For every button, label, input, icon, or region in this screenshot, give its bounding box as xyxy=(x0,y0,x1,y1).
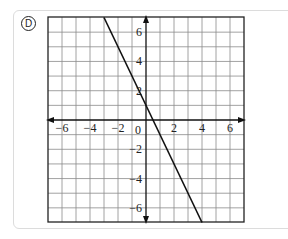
y-tick-label: 6 xyxy=(136,25,142,39)
x-tick-label: 4 xyxy=(199,121,205,135)
y-tick-label: −2 xyxy=(129,142,142,156)
x-tick-label: 2 xyxy=(171,121,177,135)
y-tick-label: −6 xyxy=(129,201,142,215)
y-tick-label: −4 xyxy=(129,172,142,186)
y-tick-label: 4 xyxy=(136,54,142,68)
x-tick-label: −2 xyxy=(112,121,125,135)
x-tick-label: −4 xyxy=(84,121,97,135)
x-axis-left-arrow-icon xyxy=(46,117,54,123)
x-tick-label: 6 xyxy=(227,121,233,135)
coordinate-graph: −6−4−20246 642−2−4−6 xyxy=(0,0,288,239)
x-tick-label: −6 xyxy=(56,121,69,135)
y-axis-down-arrow-icon xyxy=(143,216,149,224)
x-tick-label: 0 xyxy=(135,123,141,137)
y-axis-up-arrow-icon xyxy=(143,15,149,23)
x-axis-right-arrow-icon xyxy=(238,117,246,123)
